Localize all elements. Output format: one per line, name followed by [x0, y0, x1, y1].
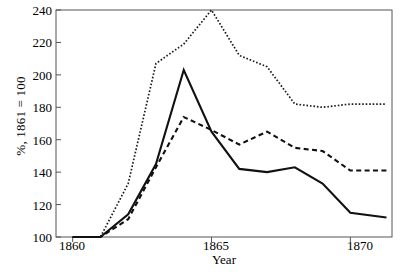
y-tick-label: 240 [18, 4, 52, 17]
y-axis-tick-labels: 240 220 200 180 160 140 120 100 [14, 0, 52, 274]
y-tick-label: 220 [18, 36, 52, 49]
data-series-group [73, 10, 387, 237]
x-axis-label: Year [56, 252, 392, 268]
axis-ticks [56, 10, 350, 242]
y-tick-label: 180 [18, 101, 52, 114]
series-line-dotted-series [73, 10, 387, 237]
chart-figure: %, 1861 = 100 240 220 200 180 160 140 12… [0, 0, 406, 274]
plot-area [0, 0, 406, 274]
series-line-solid-series [73, 70, 387, 237]
y-tick-label: 160 [18, 134, 52, 147]
y-tick-label: 140 [18, 166, 52, 179]
y-tick-label: 120 [18, 199, 52, 212]
y-tick-label: 200 [18, 69, 52, 82]
series-line-dashed-series [73, 117, 387, 237]
